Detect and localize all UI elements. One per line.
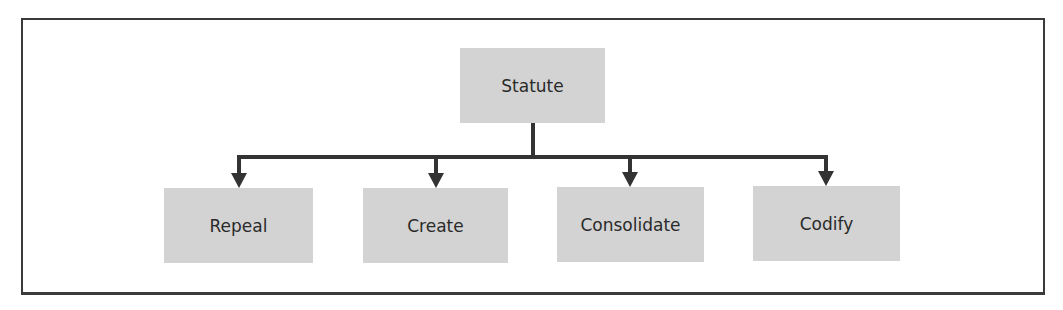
arrow-down-icon bbox=[428, 173, 444, 188]
node-label: Consolidate bbox=[580, 215, 680, 235]
node-consolidate: Consolidate bbox=[557, 187, 704, 262]
node-label: Statute bbox=[501, 76, 563, 96]
node-codify: Codify bbox=[753, 186, 900, 261]
node-label: Repeal bbox=[210, 216, 268, 236]
node-repeal: Repeal bbox=[164, 188, 313, 263]
arrow-down-icon bbox=[818, 171, 834, 186]
connector-lines bbox=[0, 0, 1063, 310]
node-label: Create bbox=[407, 216, 464, 236]
node-label: Codify bbox=[800, 214, 854, 234]
arrow-down-icon bbox=[231, 173, 247, 188]
arrow-down-icon bbox=[622, 172, 638, 187]
node-create: Create bbox=[363, 188, 508, 263]
node-statute: Statute bbox=[460, 48, 605, 123]
